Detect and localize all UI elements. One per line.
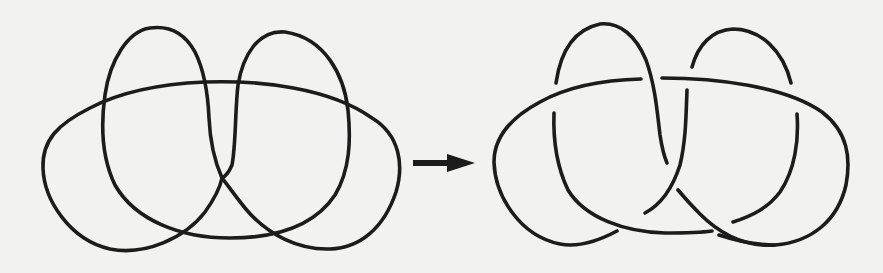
knot-projection-left xyxy=(43,28,400,251)
knot-figure xyxy=(0,0,883,273)
knot-diagram-right xyxy=(494,24,848,245)
arrow-right-icon xyxy=(413,154,475,172)
